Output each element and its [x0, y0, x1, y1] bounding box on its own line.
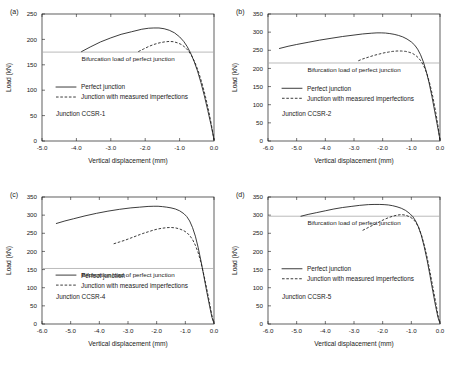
y-tick-label: 50	[30, 112, 37, 119]
junction-title: Junction CCSR-5	[282, 293, 332, 300]
x-tick-label: -4.0	[320, 144, 331, 151]
x-axis-title: Vertical displacement (mm)	[88, 157, 168, 165]
legend-solid-label: Perfect junction	[307, 85, 351, 93]
x-tick-label: -2.0	[151, 327, 162, 334]
legend-dashed-label: Junction with measured imperfections	[81, 282, 188, 290]
x-tick-label: 0.0	[436, 327, 445, 334]
x-tick-label: 0.0	[210, 144, 219, 151]
x-tick-label: -4.0	[71, 144, 82, 151]
x-tick-label: -5.0	[291, 144, 302, 151]
x-tick-label: -1.0	[174, 144, 185, 151]
y-tick-label: 250	[27, 229, 38, 236]
chart-panel-1: (a)050100150200250-5.0-4.0-3.0-2.0-1.00.…	[0, 0, 226, 183]
y-tick-label: 300	[253, 211, 264, 218]
legend-dashed-label: Junction with measured imperfections	[81, 93, 188, 101]
x-tick-label: 0.0	[210, 327, 219, 334]
legend-dashed-label: Junction with measured imperfections	[307, 275, 414, 283]
y-axis-title: Load (kN)	[231, 246, 239, 275]
junction-title: Junction CCSR-2	[282, 110, 332, 117]
y-tick-label: 150	[253, 83, 264, 90]
legend-solid-label: Perfect junction	[307, 265, 351, 273]
y-tick-label: 100	[253, 284, 264, 291]
plot-area: 050100150200250300350-6.0-5.0-4.0-3.0-2.…	[0, 183, 226, 366]
figure-container: (a)050100150200250-5.0-4.0-3.0-2.0-1.00.…	[0, 0, 452, 366]
y-tick-label: 50	[256, 119, 263, 126]
legend-dashed-label: Junction with measured imperfections	[307, 95, 414, 103]
y-tick-label: 50	[30, 302, 37, 309]
plot-area: 050100150200250-5.0-4.0-3.0-2.0-1.00.0Ve…	[0, 0, 226, 183]
plot-area: 050100150200250300350-6.0-5.0-4.0-3.0-2.…	[226, 183, 452, 366]
x-tick-label: -5.0	[37, 144, 48, 151]
x-tick-label: -2.0	[377, 327, 388, 334]
x-tick-label: -3.0	[123, 327, 134, 334]
x-tick-label: -2.0	[140, 144, 151, 151]
y-axis-title: Load (kN)	[231, 63, 239, 92]
bifurcation-label: Bifurcation load of perfect junction	[307, 219, 401, 226]
y-tick-label: 300	[253, 28, 264, 35]
x-tick-label: -1.0	[180, 327, 191, 334]
chart-panel-3: (c)050100150200250300350-6.0-5.0-4.0-3.0…	[0, 183, 226, 366]
x-tick-label: -6.0	[263, 144, 274, 151]
y-tick-label: 150	[27, 266, 38, 273]
chart-panel-2: (b)050100150200250300350-6.0-5.0-4.0-3.0…	[226, 0, 452, 183]
x-tick-label: -4.0	[94, 327, 105, 334]
y-tick-label: 350	[253, 10, 264, 17]
y-tick-label: 350	[253, 193, 264, 200]
y-tick-label: 100	[27, 86, 38, 93]
x-tick-label: -1.0	[406, 327, 417, 334]
plot-frame	[268, 14, 440, 141]
x-tick-label: -1.0	[406, 144, 417, 151]
x-tick-label: -5.0	[291, 327, 302, 334]
x-tick-label: -6.0	[37, 327, 48, 334]
series-curve-1	[56, 206, 214, 323]
y-tick-label: 250	[253, 229, 264, 236]
junction-title: Junction CCSR-4	[56, 293, 106, 300]
plot-frame	[42, 197, 214, 324]
x-tick-label: -2.0	[377, 144, 388, 151]
bifurcation-label: Bifurcation load of perfect junction	[307, 66, 401, 73]
y-tick-label: 200	[253, 65, 264, 72]
x-tick-label: -6.0	[263, 327, 274, 334]
y-tick-label: 150	[27, 61, 38, 68]
y-tick-label: 150	[253, 266, 264, 273]
x-tick-label: -3.0	[349, 327, 360, 334]
y-tick-label: 200	[27, 248, 38, 255]
plot-area: 050100150200250300350-6.0-5.0-4.0-3.0-2.…	[226, 0, 452, 183]
legend-solid-label: Perfect junction	[81, 83, 125, 91]
x-tick-label: -5.0	[65, 327, 76, 334]
y-tick-label: 100	[253, 101, 264, 108]
x-axis-title: Vertical displacement (mm)	[314, 157, 394, 165]
x-tick-label: 0.0	[436, 144, 445, 151]
y-tick-label: 350	[27, 193, 38, 200]
legend-solid-label: Perfect junction	[81, 272, 125, 280]
x-axis-title: Vertical displacement (mm)	[314, 340, 394, 348]
y-axis-title: Load (kN)	[5, 246, 13, 275]
y-tick-label: 250	[253, 46, 264, 53]
y-tick-label: 50	[256, 302, 263, 309]
y-tick-label: 200	[27, 36, 38, 43]
chart-panel-4: (d)050100150200250300350-6.0-5.0-4.0-3.0…	[226, 183, 452, 366]
x-tick-label: -3.0	[105, 144, 116, 151]
y-tick-label: 250	[27, 10, 38, 17]
junction-title: Junction CCSR-1	[56, 110, 106, 117]
y-tick-label: 200	[253, 248, 264, 255]
y-tick-label: 300	[27, 211, 38, 218]
x-axis-title: Vertical displacement (mm)	[88, 340, 168, 348]
y-tick-label: 100	[27, 284, 38, 291]
y-axis-title: Load (kN)	[5, 63, 13, 92]
bifurcation-label: Bifurcation load of perfect junction	[81, 55, 175, 62]
x-tick-label: -3.0	[349, 144, 360, 151]
x-tick-label: -4.0	[320, 327, 331, 334]
series-curve-1	[279, 33, 440, 140]
